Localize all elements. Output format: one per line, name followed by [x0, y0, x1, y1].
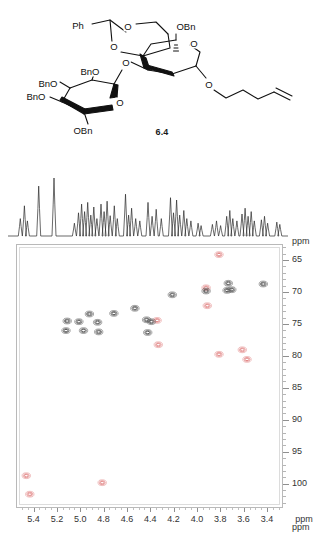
x-tick-label: 5.4	[27, 514, 40, 524]
y-tick-minor	[283, 343, 286, 344]
x-tick-minor	[144, 508, 145, 510]
x-tick-minor	[92, 508, 93, 510]
y-tick-major	[283, 356, 289, 357]
x-tick-minor	[238, 508, 239, 510]
cross-peak	[95, 329, 103, 335]
y-tick-major	[283, 388, 289, 389]
x-tick-minor	[121, 508, 122, 510]
atom-label-bno-8: BnO	[26, 91, 45, 102]
atom-label-ph-0: Ph	[72, 20, 84, 31]
x-tick-minor	[98, 508, 99, 510]
cross-peak	[79, 328, 87, 334]
cross-peak	[62, 328, 70, 334]
cross-peak	[203, 303, 211, 309]
x-tick-minor	[86, 508, 87, 510]
x-tick-label: 4.8	[97, 514, 110, 524]
x-tick-label: 4.4	[144, 514, 157, 524]
x-tick-major	[150, 508, 151, 512]
x-tick-major	[57, 508, 58, 512]
y-tick-minor	[283, 477, 286, 478]
x-tick-major	[267, 508, 268, 512]
x-tick-label: 4.0	[191, 514, 204, 524]
atom-label-o-5: O	[122, 57, 129, 68]
cross-peak	[168, 292, 176, 298]
y-tick-minor	[283, 305, 286, 306]
cross-peak	[26, 491, 34, 497]
y-tick-minor	[283, 433, 286, 434]
y-tick-major	[283, 452, 289, 453]
x-tick-major	[244, 508, 245, 512]
y-tick-minor	[283, 458, 286, 459]
x-tick-minor	[22, 508, 23, 510]
y-tick-major	[283, 260, 289, 261]
x-tick-minor	[156, 508, 157, 510]
y-tick-minor	[283, 369, 286, 370]
cross-peak	[98, 480, 106, 486]
chemical-structure-panel: PhOOOBnOOBnOBnOBnOOOBnO 6.4	[0, 0, 324, 152]
contour-plot-area	[16, 244, 283, 508]
y-tick-label: 100	[292, 478, 307, 488]
y-tick-major	[283, 292, 289, 293]
cross-peak-layer	[17, 245, 282, 507]
x-tick-minor	[139, 508, 140, 510]
x-tick-major	[80, 508, 81, 512]
y-tick-minor	[283, 273, 286, 274]
cross-peak	[63, 318, 71, 324]
y-tick-minor	[283, 503, 286, 504]
compound-label: 6.4	[0, 127, 324, 137]
y-tick-minor	[283, 266, 286, 267]
cross-peak	[154, 342, 162, 348]
x-tick-minor	[45, 508, 46, 510]
y-tick-major	[283, 324, 289, 325]
y-axis: 65707580859095100	[283, 244, 324, 508]
atom-label-o-2: O	[110, 41, 117, 52]
y-tick-minor	[283, 413, 286, 414]
x-axis: 5.45.25.04.84.64.44.24.03.83.63.4ppm	[16, 508, 283, 538]
y-tick-minor	[283, 496, 286, 497]
x-tick-minor	[279, 508, 280, 510]
x-tick-minor	[209, 508, 210, 510]
y-tick-label: 90	[292, 414, 302, 424]
x-tick-major	[174, 508, 175, 512]
atom-label-bno-6: BnO	[80, 66, 99, 77]
y-tick-minor	[283, 465, 286, 466]
y-tick-label: 65	[292, 254, 302, 264]
x-tick-label: 4.2	[167, 514, 180, 524]
y-tick-minor	[283, 311, 286, 312]
y-tick-minor	[283, 349, 286, 350]
x-tick-major	[34, 508, 35, 512]
cross-peak	[243, 357, 251, 363]
x-tick-minor	[215, 508, 216, 510]
y-tick-minor	[283, 407, 286, 408]
cross-peak	[224, 280, 232, 286]
cross-peak	[259, 281, 267, 287]
y-tick-label: 75	[292, 318, 302, 328]
cross-peak	[85, 311, 93, 317]
x-tick-minor	[226, 508, 227, 510]
x-tick-minor	[255, 508, 256, 510]
proton-projection-trace	[8, 172, 288, 240]
y-tick-minor	[283, 394, 286, 395]
x-tick-label: 3.8	[214, 514, 227, 524]
y-tick-minor	[283, 375, 286, 376]
cross-peak	[93, 319, 101, 325]
x-tick-major	[127, 508, 128, 512]
x-tick-label: 4.6	[121, 514, 134, 524]
y-tick-minor	[283, 286, 286, 287]
cross-peak	[147, 319, 155, 325]
x-tick-minor	[109, 508, 110, 510]
x-tick-minor	[273, 508, 274, 510]
cross-peak	[238, 347, 246, 353]
y-tick-minor	[283, 490, 286, 491]
y-tick-minor	[283, 254, 286, 255]
y-tick-minor	[283, 330, 286, 331]
x-tick-label: 3.6	[237, 514, 250, 524]
y-tick-minor	[283, 247, 286, 248]
y-tick-label: 80	[292, 350, 302, 360]
atom-label-o-9: O	[116, 97, 123, 108]
x-tick-minor	[179, 508, 180, 510]
x-tick-minor	[168, 508, 169, 510]
y-tick-minor	[283, 381, 286, 382]
y-tick-label: 95	[292, 446, 302, 456]
y-tick-minor	[283, 426, 286, 427]
